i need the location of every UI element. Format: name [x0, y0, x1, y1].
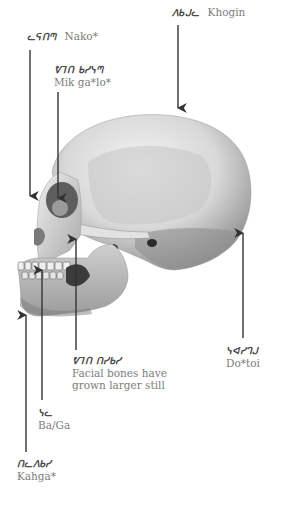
label-mik-galo-script: ᕓᒣᑎ ᑲᓯᓭᘉ — [54, 64, 111, 76]
label-kahga: ᑎᓚᐱᑲᓯ Kahga* — [17, 458, 56, 482]
label-khogin: ᐱᑲᒍᓚ Khogin — [172, 6, 245, 19]
label-dotoi-script: ᓭᐊᓯᒉᒍ — [226, 345, 260, 357]
label-facial-bones-line-2: grown larger still — [72, 379, 167, 391]
label-mik-galo: ᕓᒣᑎ ᑲᓯᓭᘉ Mik ga*lo* — [54, 64, 111, 88]
label-khogin-script: ᐱᑲᒍᓚ — [172, 7, 199, 18]
label-facial-bones: ᕓᒣᑎ ᑎᓯᑲᓯ Facial bones have grown larger … — [72, 355, 167, 391]
label-dotoi-roman: Do*toi — [226, 357, 260, 369]
upper-teeth — [18, 262, 70, 270]
ear-canal — [147, 239, 157, 247]
label-nako-script: ᓚᕋᑎᘉ — [27, 31, 56, 42]
label-facial-bones-line-1: Facial bones have — [72, 367, 167, 379]
label-nako: ᓚᕋᑎᘉ Nako* — [27, 30, 98, 43]
label-facial-bones-script: ᕓᒣᑎ ᑎᓯᑲᓯ — [72, 355, 167, 367]
label-kahga-roman: Kahga* — [17, 470, 56, 482]
label-ba-ga-roman: Ba/Ga — [38, 419, 70, 431]
label-dotoi: ᓭᐊᓯᒉᒍ Do*toi — [226, 345, 260, 369]
label-nako-roman: Nako* — [65, 30, 98, 42]
label-khogin-roman: Khogin — [208, 6, 246, 18]
temporal-fossa — [88, 146, 211, 224]
label-ba-ga: ᓭᓚ Ba/Ga — [38, 407, 70, 431]
label-ba-ga-script: ᓭᓚ — [38, 407, 70, 419]
label-kahga-script: ᑎᓚᐱᑲᓯ — [17, 458, 56, 470]
label-mik-galo-roman: Mik ga*lo* — [54, 76, 111, 88]
